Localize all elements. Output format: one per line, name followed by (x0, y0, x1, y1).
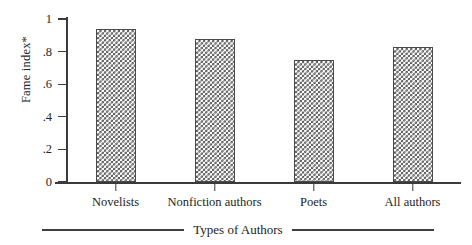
y-axis-tick-label: .6 (43, 77, 52, 92)
y-axis-tick-label: .8 (43, 44, 52, 59)
x-axis-title-row: Types of Authors (42, 222, 434, 238)
x-axis-title: Types of Authors (193, 222, 282, 238)
y-axis-line (66, 17, 68, 183)
bar-chart-figure: Fame index* 0.2.4.6.81 NovelistsNonficti… (0, 0, 472, 245)
y-axis-tick: .6 (58, 84, 66, 85)
x-axis-title-rule-left (42, 229, 184, 230)
x-axis-category-label: Nonfiction authors (167, 195, 261, 210)
y-axis-tick: .2 (58, 149, 66, 150)
y-axis-tick: 0 (58, 181, 66, 182)
bar (393, 47, 433, 182)
y-axis-tick: .4 (58, 116, 66, 117)
y-axis-tick-label: 0 (46, 174, 52, 189)
x-axis-title-rule-right (292, 229, 434, 230)
x-axis-tick (412, 182, 413, 191)
bar (195, 39, 235, 182)
y-axis-tick-label: .4 (43, 109, 52, 124)
plot-area: 0.2.4.6.81 NovelistsNonfiction authorsPo… (66, 19, 462, 182)
x-axis-category-label: Novelists (92, 195, 139, 210)
y-axis-tick: 1 (58, 18, 66, 19)
bar (294, 60, 334, 182)
y-axis-title: Fame index* (19, 0, 34, 140)
x-axis-tick (214, 182, 215, 191)
y-axis-tick: .8 (58, 51, 66, 52)
x-axis-category-label: Poets (300, 195, 327, 210)
x-axis-tick (313, 182, 314, 191)
bar (96, 29, 136, 182)
x-axis-tick (115, 182, 116, 191)
y-axis-tick-label: 1 (46, 12, 52, 27)
y-axis-tick-label: .2 (43, 142, 52, 157)
x-axis-category-label: All authors (385, 195, 441, 210)
